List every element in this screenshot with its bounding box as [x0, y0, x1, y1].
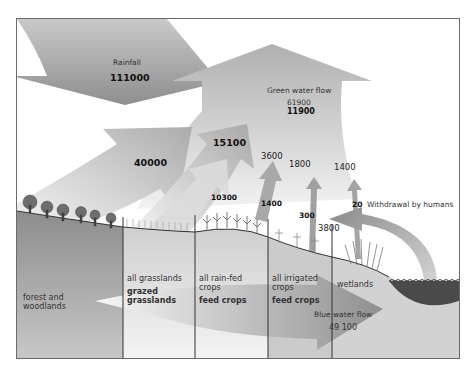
region-rainfed: all rain-fed crops feed crops [199, 274, 265, 306]
region-grasslands-sub: grazed grasslands [127, 287, 191, 305]
blue-water-flow-value: 49 100 [329, 324, 357, 333]
grassland-flow-value: 15100 [213, 138, 246, 148]
region-rainfed-sub: feed crops [199, 296, 265, 305]
region-irrigated-name: all irrigated crops [272, 274, 330, 292]
region-forest: forest and woodlands [23, 293, 103, 311]
region-grasslands-name: all grasslands [127, 274, 191, 283]
region-rainfed-name: all rain-fed crops [199, 274, 265, 292]
withdrawal-label: Withdrawal by humans [367, 201, 453, 209]
region-wetlands-name: wetlands [337, 280, 397, 289]
irrigated-flow-value: 1800 [289, 160, 311, 169]
withdrawal-value: 20 [352, 201, 362, 209]
rainfed-flow-value: 3600 [261, 152, 283, 161]
rainfed-feed-flow-value: 1400 [261, 200, 282, 208]
green-water-flow-total: 61900 [287, 99, 311, 107]
region-irrigated-sub: feed crops [272, 296, 330, 305]
forest-flow-value: 40000 [134, 158, 167, 168]
green-water-flow-value: 11900 [287, 108, 315, 117]
ground-forest [17, 211, 123, 359]
wetland-flow-value: 1400 [334, 163, 356, 172]
irrigated-feed-flow-value: 300 [299, 212, 315, 220]
green-water-flow-label: Green water flow [267, 87, 331, 95]
region-wetlands: wetlands [337, 280, 397, 289]
region-grasslands: all grasslands grazed grasslands [127, 274, 191, 306]
return-flow-value: 3800 [318, 224, 340, 233]
diagram-frame: Rainfall 111000 Green water flow 61900 1… [16, 18, 460, 359]
blue-water-flow-label: Blue water flow [314, 311, 372, 319]
rainfall-label: Rainfall [113, 59, 141, 67]
grazed-flow-value: 10300 [211, 194, 237, 202]
region-forest-name: forest and woodlands [23, 293, 66, 311]
rainfall-value: 111000 [110, 73, 150, 83]
region-irrigated: all irrigated crops feed crops [272, 274, 330, 306]
